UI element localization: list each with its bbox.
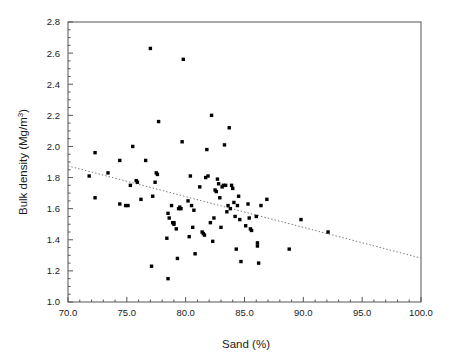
data-point <box>179 207 182 210</box>
data-point <box>186 199 189 202</box>
data-point <box>212 216 215 219</box>
data-point <box>205 148 208 151</box>
y-axis-title-tail: ) <box>17 109 29 113</box>
data-point <box>106 171 109 174</box>
x-axis-major-ticks <box>68 297 421 302</box>
data-point <box>223 143 226 146</box>
data-point <box>259 204 262 207</box>
y-tick-label: 1.0 <box>47 296 60 307</box>
data-point <box>237 195 240 198</box>
data-point <box>257 261 260 264</box>
y-tick-label: 2.0 <box>47 141 60 152</box>
data-point <box>288 247 291 250</box>
data-point <box>156 173 159 176</box>
x-tick-label: 100.0 <box>409 307 433 318</box>
data-point <box>118 159 121 162</box>
data-point <box>211 240 214 243</box>
y-tick-label: 2.8 <box>47 16 60 27</box>
data-point <box>153 181 156 184</box>
data-point <box>189 174 192 177</box>
data-point <box>187 235 190 238</box>
data-point <box>175 227 178 230</box>
data-point <box>209 221 212 224</box>
data-point <box>87 174 90 177</box>
data-point <box>299 218 302 221</box>
data-point <box>232 201 235 204</box>
data-point <box>225 210 228 213</box>
data-point <box>229 207 232 210</box>
data-point <box>151 195 154 198</box>
data-point <box>118 202 121 205</box>
data-point <box>167 216 170 219</box>
data-point <box>182 58 185 61</box>
data-point <box>255 215 258 218</box>
data-point <box>215 190 218 193</box>
x-tick-label: 85.0 <box>235 307 254 318</box>
data-point <box>244 224 247 227</box>
data-point <box>216 177 219 180</box>
data-point <box>218 196 221 199</box>
data-point <box>239 260 242 263</box>
y-axis-tick-labels: 1.01.21.41.61.82.02.22.42.62.8 <box>47 16 60 307</box>
data-point <box>193 252 196 255</box>
data-point <box>131 145 134 148</box>
data-point <box>149 47 152 50</box>
data-point <box>224 184 227 187</box>
scatter-data-points <box>87 47 329 281</box>
data-point <box>203 233 206 236</box>
data-point <box>129 184 132 187</box>
data-point <box>136 181 139 184</box>
y-axis-title: Bulk density (Mg/m3) <box>16 109 29 215</box>
scatter-plot-figure: 70.075.080.085.090.095.0100.0 1.01.21.41… <box>0 0 455 361</box>
data-point <box>144 159 147 162</box>
data-point <box>166 212 169 215</box>
data-point <box>191 226 194 229</box>
data-point <box>172 223 175 226</box>
y-tick-label: 2.6 <box>47 48 60 59</box>
data-point <box>250 229 253 232</box>
data-point <box>246 202 249 205</box>
x-tick-label: 80.0 <box>176 307 195 318</box>
data-point <box>230 184 233 187</box>
data-point <box>217 182 220 185</box>
y-tick-label: 2.2 <box>47 110 60 121</box>
y-tick-label: 1.4 <box>47 234 60 245</box>
data-point <box>180 140 183 143</box>
y-tick-label: 2.4 <box>47 79 60 90</box>
data-point <box>256 244 259 247</box>
data-point <box>235 247 238 250</box>
x-tick-label: 75.0 <box>118 307 137 318</box>
data-point <box>226 204 229 207</box>
data-point <box>93 151 96 154</box>
data-point <box>165 237 168 240</box>
data-point <box>228 126 231 129</box>
x-tick-label: 90.0 <box>294 307 313 318</box>
y-tick-label: 1.6 <box>47 203 60 214</box>
y-tick-label: 1.2 <box>47 265 60 276</box>
y-tick-label: 1.8 <box>47 172 60 183</box>
data-point <box>126 204 129 207</box>
x-tick-label: 70.0 <box>59 307 78 318</box>
data-point <box>139 198 142 201</box>
data-point <box>256 241 259 244</box>
data-point <box>210 114 213 117</box>
y-axis-title-main: Bulk density (Mg/m <box>17 117 29 215</box>
data-point <box>150 265 153 268</box>
data-point <box>326 230 329 233</box>
regression-trendline <box>68 166 421 258</box>
data-point <box>157 120 160 123</box>
data-point <box>192 209 195 212</box>
data-point <box>231 187 234 190</box>
data-point <box>219 226 222 229</box>
data-point <box>190 204 193 207</box>
data-point <box>170 204 173 207</box>
data-point <box>166 277 169 280</box>
data-point <box>238 218 241 221</box>
data-point <box>198 185 201 188</box>
plot-canvas: 70.075.080.085.090.095.0100.0 1.01.21.41… <box>0 0 455 361</box>
data-point <box>176 257 179 260</box>
data-point <box>93 196 96 199</box>
data-point <box>236 204 239 207</box>
x-axis-tick-labels: 70.075.080.085.090.095.0100.0 <box>59 307 433 318</box>
data-point <box>233 215 236 218</box>
